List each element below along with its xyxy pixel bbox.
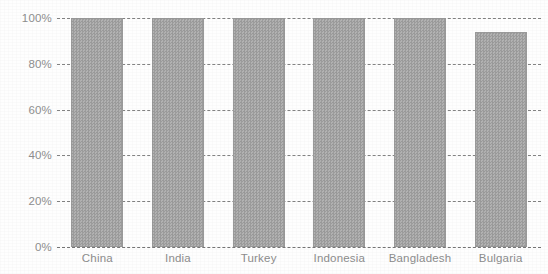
bar-china bbox=[71, 18, 123, 247]
bar-turkey bbox=[233, 18, 285, 247]
plot-area bbox=[57, 18, 541, 247]
gridline-40 bbox=[57, 155, 541, 156]
y-axis-tick-label: 0% bbox=[4, 241, 52, 253]
gridline-60 bbox=[57, 110, 541, 111]
gridline-20 bbox=[57, 201, 541, 202]
bar-india bbox=[152, 18, 204, 247]
bar-bulgaria bbox=[475, 32, 527, 247]
y-axis-tick-label: 100% bbox=[4, 12, 52, 24]
x-axis-tick-label: Bangladesh bbox=[389, 252, 452, 264]
gridline-100 bbox=[57, 18, 541, 19]
y-axis-tick-label: 20% bbox=[4, 195, 52, 207]
x-axis-tick-label: India bbox=[165, 252, 191, 264]
y-axis: 0%20%40%60%80%100% bbox=[0, 0, 52, 274]
x-axis-tick-label: Turkey bbox=[241, 252, 277, 264]
gridline-80 bbox=[57, 64, 541, 65]
bar-bangladesh bbox=[394, 18, 446, 247]
x-axis-tick-label: China bbox=[82, 252, 113, 264]
y-axis-tick-label: 60% bbox=[4, 104, 52, 116]
y-axis-tick-label: 40% bbox=[4, 149, 52, 161]
bar-indonesia bbox=[313, 18, 365, 247]
x-axis: ChinaIndiaTurkeyIndonesiaBangladeshBulga… bbox=[57, 252, 541, 274]
x-axis-tick-label: Bulgaria bbox=[479, 252, 523, 264]
x-axis-tick-label: Indonesia bbox=[313, 252, 365, 264]
gridline-0 bbox=[57, 247, 541, 248]
y-axis-tick-label: 80% bbox=[4, 58, 52, 70]
bar-chart: 0%20%40%60%80%100% ChinaIndiaTurkeyIndon… bbox=[0, 0, 548, 274]
